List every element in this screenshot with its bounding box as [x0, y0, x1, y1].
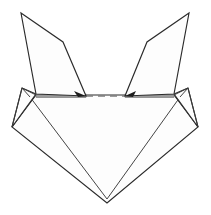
right-flap-fill	[125, 13, 189, 96]
folded-model-diagram: Folded sheet model Line drawing of a fol…	[0, 0, 211, 215]
left-flap-fill	[21, 13, 86, 96]
figure-root: Folded sheet model Line drawing of a fol…	[0, 0, 211, 215]
